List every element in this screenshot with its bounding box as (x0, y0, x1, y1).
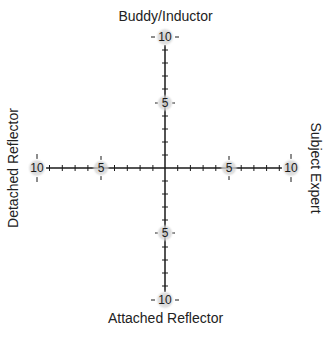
axis-label-right: Subject Expert (308, 122, 324, 213)
axis-label-top: Buddy/Inductor (0, 8, 331, 24)
tick-label-bottom-10: 10 (158, 293, 172, 307)
tick-label-bottom-5: 5 (162, 226, 169, 240)
tick-label-right-10: 10 (284, 161, 298, 175)
tick-label-right-5: 5 (226, 161, 233, 175)
axes-diagram: 10 5 5 10 10 5 5 10 (0, 0, 331, 342)
tick-label-left-10: 10 (30, 161, 44, 175)
axis-label-left: Detached Reflector (5, 108, 21, 228)
tick-label-top-5: 5 (162, 96, 169, 110)
tick-label-left-5: 5 (98, 161, 105, 175)
tick-label-top-10: 10 (158, 30, 172, 44)
axis-label-bottom: Attached Reflector (0, 310, 331, 326)
